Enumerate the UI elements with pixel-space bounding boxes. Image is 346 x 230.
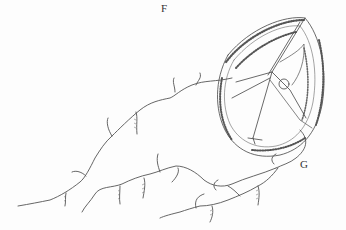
illustration-canvas: F G [0,0,346,230]
tentacle-1 [18,78,232,206]
ctenophore-drawing [0,0,346,230]
tentacle-3 [160,168,278,218]
tentacle-2 [82,166,276,212]
